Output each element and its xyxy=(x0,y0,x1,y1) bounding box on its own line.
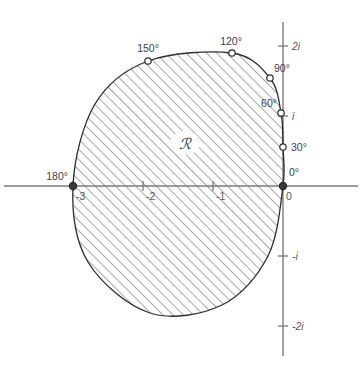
complex-plane-figure: -3-2-10 2ii-i-2i 0°30°60°90°120°150°180°… xyxy=(0,0,362,366)
imag-tick-label--i: -i xyxy=(292,250,298,262)
real-tick-label--3: -3 xyxy=(76,190,85,202)
imag-tick-label-2i: 2i xyxy=(291,40,301,52)
imag-tick-label--2i: -2i xyxy=(292,320,304,332)
angle-marker-0 xyxy=(279,182,286,189)
angle-label-30: 30° xyxy=(291,141,307,153)
angle-marker-90 xyxy=(267,75,273,81)
angle-marker-180 xyxy=(69,182,76,189)
angle-label-90: 90° xyxy=(274,62,290,74)
angle-label-120: 120° xyxy=(220,35,242,47)
real-tick-label--1: -1 xyxy=(216,190,225,202)
angle-label-150: 150° xyxy=(137,42,159,54)
angle-marker-150 xyxy=(145,58,151,64)
angle-label-60: 60° xyxy=(261,97,277,109)
real-tick-label--2: -2 xyxy=(146,190,155,202)
angle-label-180: 180° xyxy=(46,170,68,182)
angle-label-0: 0° xyxy=(289,166,299,178)
angle-marker-120 xyxy=(229,50,235,56)
region-label-group: ℛ xyxy=(170,131,200,155)
real-tick-label-0: 0 xyxy=(286,190,292,202)
imag-tick-label-i: i xyxy=(292,110,295,122)
angle-marker-60 xyxy=(278,110,284,116)
figure-canvas: -3-2-10 2ii-i-2i 0°30°60°90°120°150°180°… xyxy=(0,0,362,366)
region-label: ℛ xyxy=(179,135,192,153)
angle-marker-30 xyxy=(280,144,286,150)
